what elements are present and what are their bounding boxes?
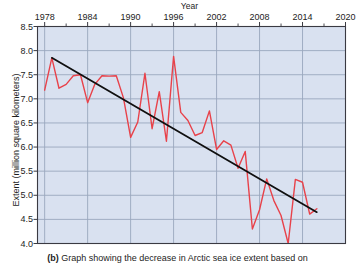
caption-text: Graph showing the decrease in Arctic sea… — [61, 253, 308, 263]
figure-caption: (b) Graph showing the decrease in Arctic… — [0, 252, 355, 264]
plot-background — [38, 27, 346, 244]
caption-label: (b) — [47, 253, 59, 263]
